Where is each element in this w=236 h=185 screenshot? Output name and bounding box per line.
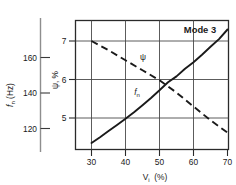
x-axis-title-unit: (%)	[154, 172, 167, 182]
chart-annotation-mode: Mode 3	[184, 24, 216, 35]
x-axis-ticklabel-70: 70	[223, 157, 233, 167]
psi-axis-title-text: ψ, %	[50, 70, 60, 89]
x-axis-ticklabel-60: 60	[189, 157, 199, 167]
left-axis-ticklabel-160: 160	[23, 53, 37, 63]
x-axis-ticklabel-30: 30	[87, 157, 97, 167]
plot-frame	[76, 21, 229, 150]
series-psi-label: ψ	[140, 52, 146, 62]
left-axis-title-unit: (Hz)	[5, 83, 15, 99]
series-fn-label-subscript: n	[136, 92, 139, 98]
left-axis-ticklabel-140: 140	[23, 88, 37, 98]
chart-svg: 160 140 120 fn (Hz)	[0, 0, 236, 185]
x-axis-ticklabel-50: 50	[155, 157, 165, 167]
left-fn-axis: 160 140 120 fn (Hz)	[5, 18, 50, 152]
x-axis-ticklabel-40: 40	[121, 157, 131, 167]
psi-axis-ticklabel-7: 7	[62, 36, 67, 46]
x-axis-title: Vi (%)	[143, 172, 168, 183]
psi-axis: 7 6 5 ψ, %	[50, 36, 76, 123]
chart-figure: 160 140 120 fn (Hz)	[0, 0, 236, 185]
svg-text:fn (Hz): fn (Hz)	[5, 83, 16, 107]
left-axis-title: fn (Hz)	[5, 83, 16, 107]
psi-axis-ticklabel-6: 6	[62, 75, 67, 85]
series-fn-label: fn	[134, 87, 140, 98]
plot-area: ψ fn Mode 3	[76, 21, 229, 150]
vertical-gridlines	[92, 21, 194, 150]
x-axis: 30 40 50 60 70 Vi (%)	[87, 150, 233, 184]
psi-axis-title: ψ, %	[50, 70, 60, 89]
left-axis-ticklabel-120: 120	[23, 124, 37, 134]
psi-axis-ticklabel-5: 5	[62, 113, 67, 123]
